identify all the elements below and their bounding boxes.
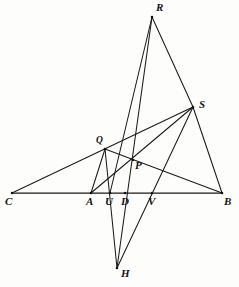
point-label-b: B [224, 196, 232, 207]
point-label-p: P [135, 160, 142, 171]
geometric-figure: RSQPCAUDVBH [0, 0, 239, 287]
vertex-a [90, 192, 93, 195]
vertex-u [109, 192, 112, 195]
point-label-d: D [121, 196, 129, 207]
line-c-s [12, 107, 193, 193]
vertex-p [132, 159, 135, 162]
vertex-s [192, 106, 195, 109]
vertex-c [11, 192, 14, 195]
point-label-r: R [156, 2, 164, 13]
vertex-d [124, 192, 127, 195]
line-r-s [152, 17, 193, 107]
point-label-s: S [199, 99, 205, 110]
vertex-r [151, 16, 154, 19]
point-label-h: H [121, 268, 130, 279]
line-q-b [105, 149, 222, 193]
figure-canvas [0, 0, 239, 287]
point-label-c: C [5, 196, 13, 207]
vertex-layer [11, 16, 224, 270]
line-q-h [105, 149, 117, 268]
vertex-h [116, 267, 119, 270]
vertex-b [221, 192, 224, 195]
line-s-b [193, 107, 222, 193]
point-label-q: Q [96, 136, 103, 146]
line-q-a [91, 149, 105, 193]
vertex-v [151, 192, 154, 195]
point-label-a: A [86, 196, 94, 207]
segment-layer [12, 17, 222, 268]
point-label-u: U [105, 196, 113, 207]
vertex-q [104, 148, 107, 151]
point-label-v: V [148, 196, 156, 207]
